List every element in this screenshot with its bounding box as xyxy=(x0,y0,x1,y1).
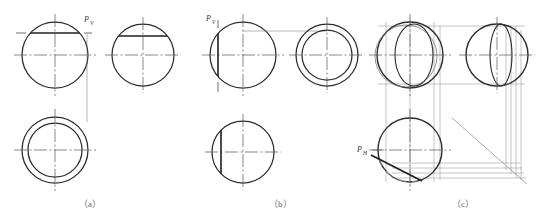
figure-svg: P V xyxy=(0,0,538,218)
caption-b: （b） xyxy=(269,199,292,209)
caption-a: （a） xyxy=(79,199,101,209)
label-pv-a-base: P xyxy=(83,15,89,24)
canvas-background xyxy=(0,0,538,218)
label-pv-b-base: P xyxy=(205,14,211,23)
label-ph-c-base: P xyxy=(356,145,362,154)
technical-drawing-figure: P V xyxy=(0,0,538,218)
caption-c: （c） xyxy=(452,199,474,209)
